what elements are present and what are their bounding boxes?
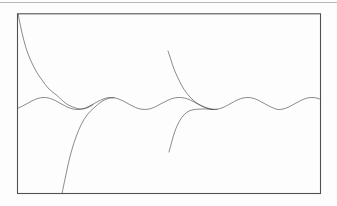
- upper-left-transient-curve: [18, 14, 93, 109]
- lower-left-transient-curve: [62, 98, 114, 194]
- periodic-solution-curve: [18, 97, 321, 109]
- scanned-page: [0, 0, 337, 206]
- ode-solutions-figure: [0, 0, 337, 206]
- mid-lower-transient-curve: [169, 109, 213, 152]
- mid-upper-transient-curve: [168, 51, 217, 109]
- figure-frame: [18, 14, 321, 194]
